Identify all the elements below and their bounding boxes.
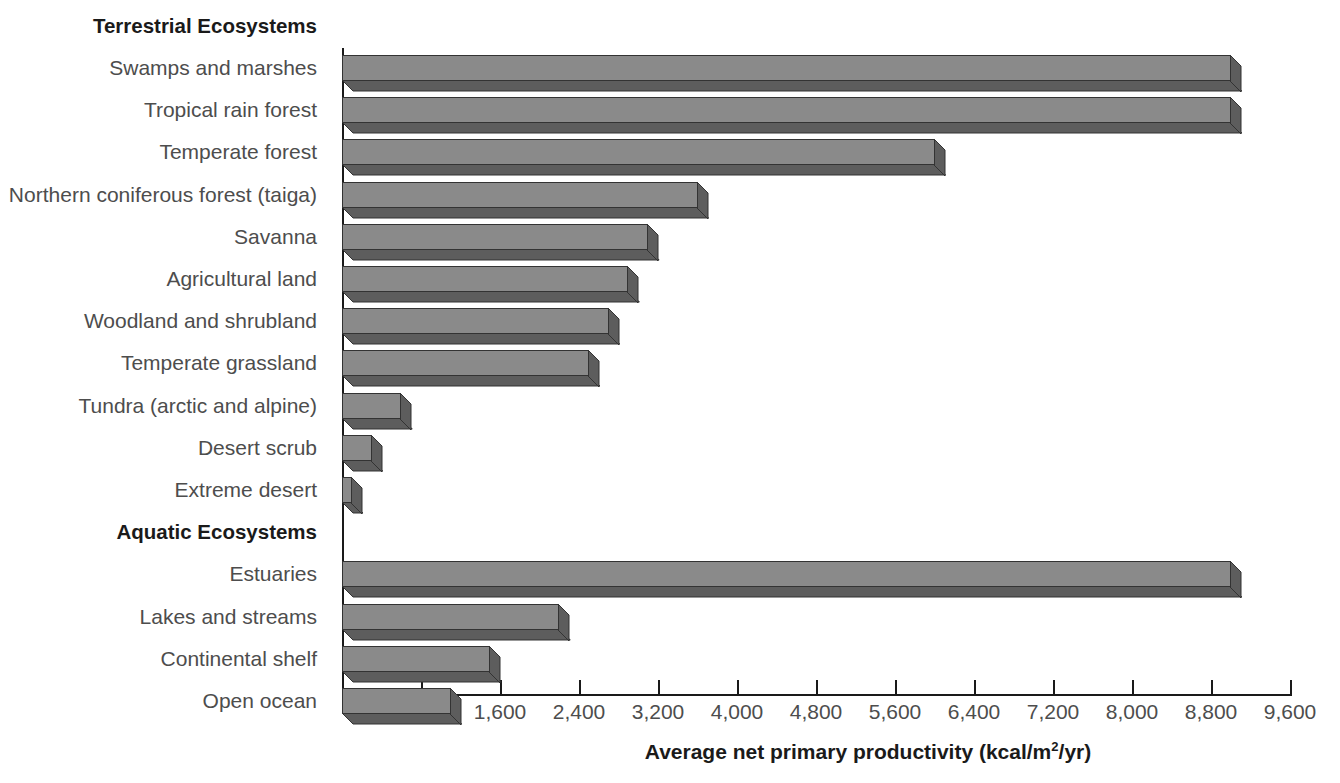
- bar-side-face: [934, 139, 947, 178]
- x-tick-label: 4,000: [711, 700, 764, 724]
- bar-side-face: [647, 224, 660, 263]
- bar: [342, 688, 451, 714]
- bar-bottom-face: [342, 586, 1244, 599]
- bar-front-face: [342, 646, 490, 672]
- bar-front-face: [342, 561, 1231, 587]
- bar-bottom-face: [342, 122, 1244, 135]
- category-label: Temperate forest: [159, 140, 317, 164]
- x-tick: [1290, 680, 1292, 694]
- bar-bottom-face: [342, 249, 661, 262]
- category-label: Tundra (arctic and alpine): [78, 394, 317, 418]
- bar-front-face: [342, 182, 698, 208]
- x-tick: [895, 680, 897, 694]
- bar-side-face: [1230, 55, 1243, 94]
- x-axis-title: Average net primary productivity (kcal/m…: [645, 739, 1091, 764]
- bar-front-face: [342, 97, 1231, 123]
- bar: [342, 350, 589, 376]
- bar-front-face: [342, 350, 589, 376]
- bar-side-face: [400, 393, 413, 432]
- bar-front-face: [342, 393, 401, 419]
- bar-front-face: [342, 266, 628, 292]
- x-tick-label: 8,800: [1185, 700, 1238, 724]
- x-tick-label: 4,800: [790, 700, 843, 724]
- bar-front-face: [342, 688, 451, 714]
- x-tick-label: 9,600: [1264, 700, 1317, 724]
- category-label: Agricultural land: [166, 267, 317, 291]
- x-axis-line: [342, 694, 1292, 696]
- x-tick-label: 5,600: [869, 700, 922, 724]
- bar: [342, 308, 609, 334]
- bar-bottom-face: [342, 207, 711, 220]
- bar: [342, 266, 628, 292]
- plot-area: 8001,6002,4003,2004,0004,8005,6006,4007,…: [342, 0, 1340, 783]
- bar: [342, 55, 1231, 81]
- bar-side-face: [450, 688, 463, 727]
- bar-side-face: [371, 435, 384, 474]
- bar-side-face: [489, 646, 502, 685]
- bar-side-face: [608, 308, 621, 347]
- x-tick-label: 8,000: [1106, 700, 1159, 724]
- category-label: Desert scrub: [198, 436, 317, 460]
- category-label: Lakes and streams: [140, 605, 317, 629]
- x-tick: [658, 680, 660, 694]
- bar-side-face: [697, 182, 710, 221]
- bar: [342, 561, 1231, 587]
- category-label: Estuaries: [229, 562, 317, 586]
- category-label: Savanna: [234, 225, 317, 249]
- bar-side-face: [627, 266, 640, 305]
- x-tick-label: 6,400: [948, 700, 1001, 724]
- bar-front-face: [342, 435, 372, 461]
- bar-front-face: [342, 477, 352, 503]
- bar-bottom-face: [342, 80, 1244, 93]
- x-tick: [1211, 680, 1213, 694]
- x-tick: [974, 680, 976, 694]
- category-label: Woodland and shrubland: [84, 309, 317, 333]
- bar-side-face: [1230, 561, 1243, 600]
- category-label-column: Terrestrial EcosystemsSwamps and marshes…: [0, 0, 330, 783]
- category-label: Northern coniferous forest (taiga): [9, 183, 317, 207]
- category-label: Extreme desert: [175, 478, 317, 502]
- bar: [342, 182, 698, 208]
- bar-bottom-face: [342, 291, 641, 304]
- bar: [342, 435, 372, 461]
- bar: [342, 97, 1231, 123]
- bar: [342, 477, 352, 503]
- bar-front-face: [342, 139, 935, 165]
- x-tick: [579, 680, 581, 694]
- category-label: Swamps and marshes: [109, 56, 317, 80]
- category-label: Open ocean: [203, 689, 317, 713]
- x-tick-label: 2,400: [553, 700, 606, 724]
- x-tick: [1132, 680, 1134, 694]
- bar-side-face: [1230, 97, 1243, 136]
- bar: [342, 139, 935, 165]
- x-tick: [816, 680, 818, 694]
- category-label: Continental shelf: [161, 647, 317, 671]
- bar-bottom-face: [342, 375, 602, 388]
- bar-bottom-face: [342, 713, 464, 726]
- bar-bottom-face: [342, 671, 503, 684]
- bar-side-face: [588, 350, 601, 389]
- bar-front-face: [342, 55, 1231, 81]
- bar: [342, 224, 648, 250]
- bar: [342, 393, 401, 419]
- chart-page: Terrestrial EcosystemsSwamps and marshes…: [0, 0, 1340, 783]
- bar-side-face: [351, 477, 364, 516]
- category-label: Temperate grassland: [121, 351, 317, 375]
- bar-bottom-face: [342, 333, 622, 346]
- bar: [342, 604, 559, 630]
- bar-side-face: [558, 604, 571, 643]
- bar-front-face: [342, 224, 648, 250]
- bar-bottom-face: [342, 629, 572, 642]
- x-tick: [737, 680, 739, 694]
- x-tick-label: 1,600: [474, 700, 527, 724]
- bar-bottom-face: [342, 164, 948, 177]
- bar-front-face: [342, 308, 609, 334]
- category-label: Tropical rain forest: [144, 98, 317, 122]
- x-tick-label: 7,200: [1027, 700, 1080, 724]
- x-tick-label: 3,200: [632, 700, 685, 724]
- group-header: Aquatic Ecosystems: [116, 520, 317, 544]
- bar-front-face: [342, 604, 559, 630]
- bar: [342, 646, 490, 672]
- group-header: Terrestrial Ecosystems: [93, 14, 317, 38]
- x-tick: [1053, 680, 1055, 694]
